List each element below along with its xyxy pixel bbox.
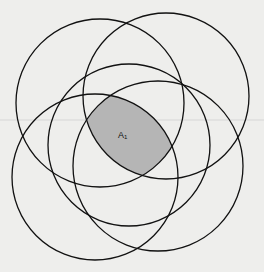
- shaded-intersection: [73, 81, 243, 251]
- venn-diagram: A1: [0, 0, 264, 272]
